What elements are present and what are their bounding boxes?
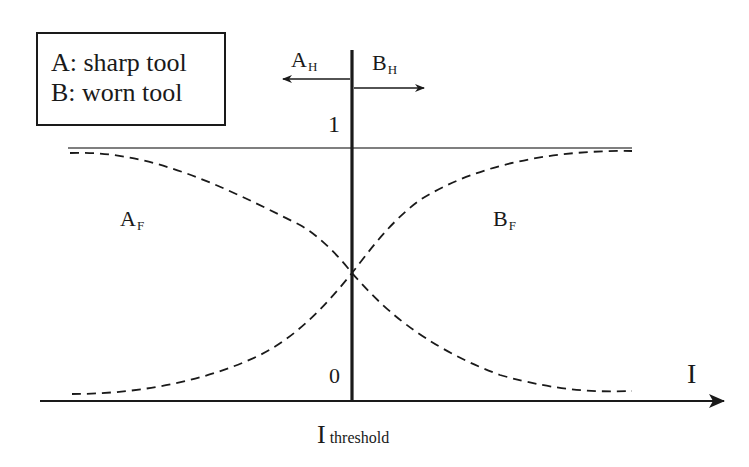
- a-f-main: A: [120, 206, 136, 231]
- threshold-label: Ithreshold: [317, 422, 389, 448]
- x-axis-label: I: [687, 360, 696, 388]
- b-f-main: B: [493, 206, 508, 231]
- b-h-label: BH: [372, 52, 397, 76]
- b-h-sub: H: [388, 62, 397, 77]
- legend-item-sharp-tool: A: sharp tool: [51, 48, 224, 78]
- a-h-sub: H: [308, 59, 317, 74]
- a-h-label: AH: [291, 49, 317, 73]
- b-f-sub: F: [509, 218, 516, 233]
- y-tick-one: 1: [328, 112, 340, 136]
- legend-box: A: sharp tool B: worn tool: [36, 32, 226, 126]
- b-h-main: B: [372, 50, 387, 75]
- y-tick-zero: 0: [329, 365, 340, 387]
- threshold-main: I: [317, 420, 326, 449]
- legend-item-worn-tool: B: worn tool: [51, 78, 224, 108]
- threshold-sub: threshold: [330, 429, 390, 446]
- a-f-label: AF: [120, 208, 144, 232]
- a-h-main: A: [291, 47, 307, 72]
- a-f-sub: F: [137, 218, 144, 233]
- b-f-label: BF: [493, 208, 516, 232]
